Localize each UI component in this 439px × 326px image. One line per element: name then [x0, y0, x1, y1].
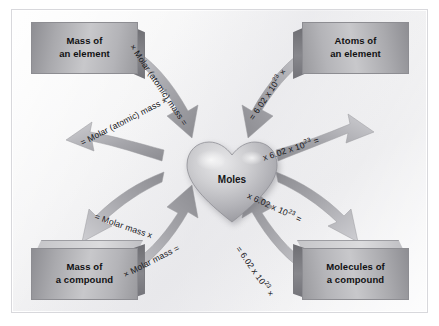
box-label-line1: Atoms of	[335, 35, 377, 46]
arrow-moles-to-molecules-compound	[276, 172, 358, 242]
box-label-line1: Mass of	[66, 261, 102, 272]
mole-concept-map-figure: Mass of an element Atoms of an element M…	[0, 0, 439, 326]
box-mass-of-a-compound[interactable]: Mass of a compound	[31, 248, 136, 298]
box-atoms-of-an-element[interactable]: Atoms of an element	[302, 22, 407, 72]
box-label-line1: Mass of	[66, 35, 102, 46]
box-label-line2: a compound	[327, 274, 384, 285]
box-front-face: Molecules of a compound	[302, 248, 409, 300]
box-molecules-of-a-compound[interactable]: Molecules of a compound	[302, 248, 407, 298]
box-label-line1: Molecules of	[326, 261, 385, 272]
diagram-frame: Mass of an element Atoms of an element M…	[11, 9, 428, 313]
box-mass-of-an-element[interactable]: Mass of an element	[31, 22, 136, 72]
box-label-line2: a compound	[56, 274, 113, 285]
box-label-line2: an element	[330, 48, 381, 59]
box-front-face: Mass of a compound	[31, 248, 138, 300]
box-label-line2: an element	[59, 48, 110, 59]
box-front-face: Atoms of an element	[302, 22, 409, 74]
box-front-face: Mass of an element	[31, 22, 138, 74]
